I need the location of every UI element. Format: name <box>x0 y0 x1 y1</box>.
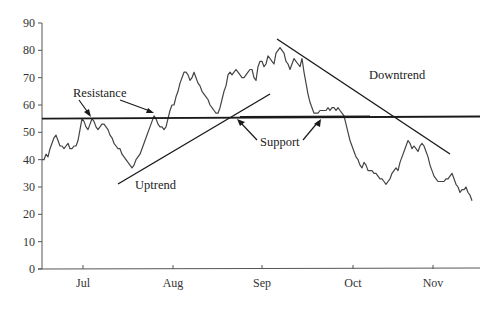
y-tick-label: 20 <box>23 207 35 221</box>
support-arrow-left <box>237 119 257 140</box>
x-tick-label: Sep <box>253 276 271 290</box>
downtrend-line <box>277 39 450 154</box>
support-label: Support <box>260 135 300 149</box>
x-axis: JulAugSepOctNov <box>38 265 480 290</box>
resistance-arrow-left <box>79 100 91 117</box>
y-tick-label: 0 <box>29 262 35 276</box>
y-tick-label: 10 <box>23 235 35 249</box>
x-tick-label: Jul <box>76 276 91 290</box>
support-line <box>240 116 370 117</box>
y-axis: 0102030405060708090 <box>23 16 42 276</box>
resistance-label: Resistance <box>73 86 127 100</box>
resistance-arrow-right <box>120 100 154 113</box>
y-tick-label: 80 <box>23 43 35 57</box>
y-tick-label: 50 <box>23 125 35 139</box>
uptrend-label: Uptrend <box>135 178 177 192</box>
downtrend-label: Downtrend <box>369 68 426 82</box>
support-arrow-right <box>303 119 321 140</box>
technical-analysis-chart: 0102030405060708090 JulAugSepOctNov Resi… <box>0 0 499 311</box>
y-tick-label: 70 <box>23 71 35 85</box>
y-tick-label: 90 <box>23 16 35 30</box>
x-tick-label: Nov <box>423 276 444 290</box>
y-tick-label: 40 <box>23 153 35 167</box>
y-tick-label: 60 <box>23 98 35 112</box>
x-tick-label: Oct <box>344 276 362 290</box>
x-tick-label: Aug <box>163 276 184 290</box>
y-tick-label: 30 <box>23 180 35 194</box>
